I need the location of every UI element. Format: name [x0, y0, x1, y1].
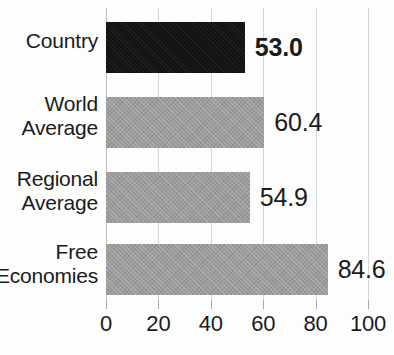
x-tick-label-60: 60	[251, 311, 275, 337]
x-tick-label-100: 100	[350, 311, 386, 337]
category-label-line: Free	[0, 240, 98, 264]
x-tick-label-20: 20	[146, 311, 170, 337]
category-label-line: Economies	[0, 264, 98, 288]
bar-country	[106, 22, 245, 73]
category-label-line: Average	[0, 191, 98, 215]
x-tick-100	[368, 300, 369, 309]
plot-area: 53.060.454.984.6	[106, 8, 368, 300]
value-label-regional-average: 54.9	[260, 183, 308, 212]
category-label-line: World	[0, 92, 98, 116]
bar-row-country: 53.0	[106, 14, 368, 88]
x-tick-label-80: 80	[304, 311, 328, 337]
bar-free-economies	[106, 244, 328, 295]
category-label-free-economies: Free Economies	[0, 240, 98, 288]
x-tick-40	[211, 300, 212, 309]
x-tick-label-40: 40	[199, 311, 223, 337]
bar-row-free-economies: 84.6	[106, 236, 368, 310]
value-label-free-economies: 84.6	[338, 255, 386, 284]
bar-row-regional-average: 54.9	[106, 164, 368, 238]
bar-chart: Country World Average Regional Average F…	[0, 0, 394, 355]
bar-row-world-average: 60.4	[106, 89, 368, 163]
category-label-world-average: World Average	[0, 92, 98, 140]
x-tick-0	[106, 300, 107, 309]
bar-world-average	[106, 97, 264, 148]
value-label-country: 53.0	[255, 33, 303, 62]
x-tick-60	[263, 300, 264, 309]
category-label-line: Country	[0, 29, 98, 53]
category-label-regional-average: Regional Average	[0, 167, 98, 215]
category-label-line: Average	[0, 116, 98, 140]
category-label-country: Country	[0, 29, 98, 53]
value-label-world-average: 60.4	[274, 108, 322, 137]
category-label-line: Regional	[0, 167, 98, 191]
x-tick-label-0: 0	[100, 311, 112, 337]
x-tick-20	[158, 300, 159, 309]
bar-regional-average	[106, 172, 250, 223]
x-tick-80	[316, 300, 317, 309]
